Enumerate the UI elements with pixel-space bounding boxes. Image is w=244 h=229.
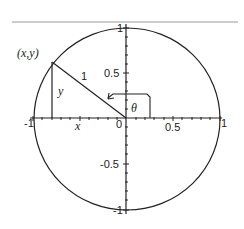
y-tick-label-0.5: 0.5 (104, 67, 119, 79)
unit-circle-diagram: -1 0 0.5 1 1 0.5 -0.5 -1 (x,y) 1 y x θ (0, 0, 244, 229)
y-tick-label-1: 1 (117, 22, 123, 34)
y-tick-label-neg1: -1 (113, 204, 123, 216)
y-tick-label-neg0.5: -0.5 (100, 158, 119, 170)
hypotenuse-label: 1 (81, 70, 87, 82)
x-tick-label-0.5: 0.5 (165, 121, 180, 133)
angle-label: θ (131, 101, 137, 115)
x-tick-label-0: 0 (116, 118, 122, 130)
x-tick-label-1: 1 (221, 117, 227, 129)
point-label: (x,y) (17, 46, 39, 60)
horizontal-leg-label: x (74, 119, 81, 133)
x-tick-label-neg1: -1 (24, 117, 34, 129)
vertical-leg-label: y (57, 84, 64, 98)
angle-indicator (108, 94, 150, 118)
